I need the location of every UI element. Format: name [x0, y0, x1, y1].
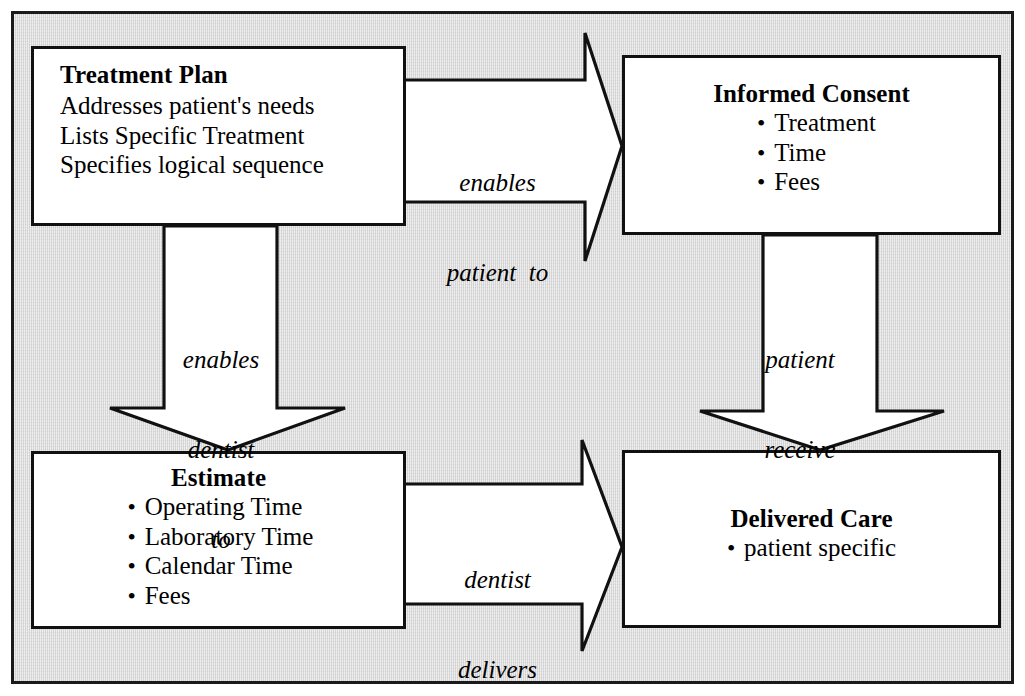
list-item: patient specific	[727, 533, 896, 563]
list-item: Time	[757, 138, 876, 168]
diagram-canvas: Treatment Plan Addresses patient's needs…	[0, 0, 1025, 696]
node-treatment-plan-line-3: Specifies logical sequence	[60, 150, 403, 180]
arrow-label-plan-to-consent: enables patient to	[410, 108, 585, 348]
node-treatment-plan-line-2: Lists Specific Treatment	[60, 121, 403, 151]
arrow-label-line: receive	[720, 435, 880, 465]
node-informed-consent-bullets: Treatment Time Fees	[757, 108, 876, 197]
node-treatment-plan-line-1: Addresses patient's needs	[60, 91, 403, 121]
arrow-label-line: patient to	[410, 258, 585, 288]
node-informed-consent-title: Informed Consent	[625, 80, 998, 108]
arrow-label-consent-to-care: patient receive	[720, 285, 880, 525]
arrow-label-line: delivers	[410, 655, 585, 685]
node-treatment-plan[interactable]: Treatment Plan Addresses patient's needs…	[31, 46, 406, 226]
node-treatment-plan-title: Treatment Plan	[60, 61, 403, 89]
list-item: Fees	[757, 167, 876, 197]
arrow-label-estimate-to-care: dentist delivers	[410, 505, 585, 696]
arrow-label-line: enables	[410, 168, 585, 198]
arrow-label-line: patient	[720, 345, 880, 375]
node-informed-consent[interactable]: Informed Consent Treatment Time Fees	[622, 55, 1001, 235]
arrow-label-line: to	[163, 525, 279, 555]
arrow-label-line: dentist	[163, 435, 279, 465]
arrow-label-plan-to-estimate: enables dentist to	[163, 285, 279, 615]
arrow-label-line: enables	[163, 345, 279, 375]
arrow-label-line: dentist	[410, 565, 585, 595]
list-item: Treatment	[757, 108, 876, 138]
node-delivered-care-bullets: patient specific	[727, 533, 896, 563]
